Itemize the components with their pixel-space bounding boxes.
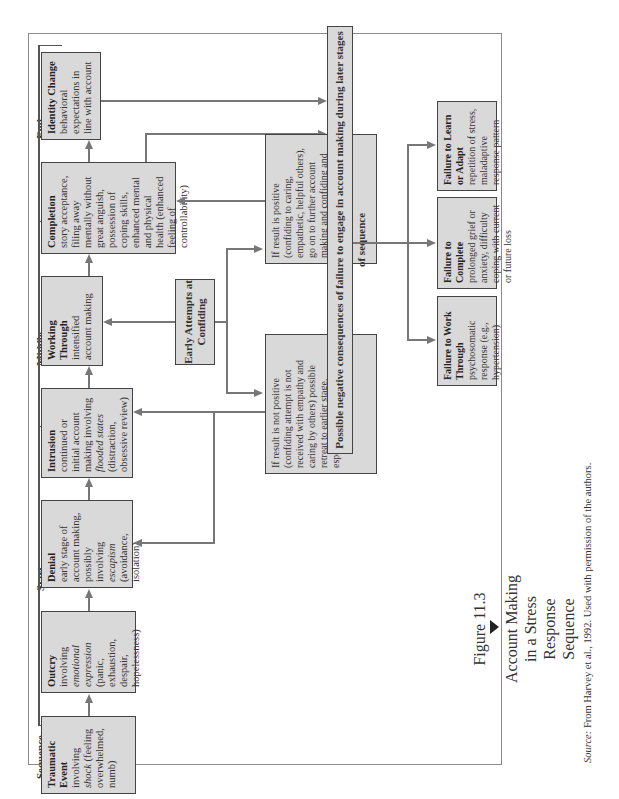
arrow-head-icon (85, 589, 93, 598)
arrow-to-negative-result (226, 392, 256, 394)
arrow-positive-to-completion (185, 200, 265, 202)
arrow-head-icon (133, 539, 142, 547)
box-working-through: Working Through intensified account maki… (41, 276, 103, 366)
arrow-head-icon (176, 197, 185, 205)
stage-bracket-line (38, 45, 40, 726)
connector-early-split (226, 249, 228, 394)
connector-consequences-down (353, 242, 408, 244)
arrow-head-icon (318, 97, 327, 105)
arrow-head-icon (85, 478, 93, 487)
arrow-traumatic-to-outcry (88, 702, 90, 716)
box-outcry: Outcry involving emotional expression (p… (41, 611, 136, 693)
arrow-head-icon (85, 140, 93, 149)
arrow-head-icon (85, 254, 93, 263)
arrow-head-icon (85, 694, 93, 703)
connector-completion-right (145, 134, 147, 162)
arrow-head-icon (254, 389, 263, 397)
arrow-to-failure-learn (407, 144, 429, 146)
arrow-head-icon (427, 239, 436, 247)
arrow-negative-to-intrusion (142, 411, 265, 413)
figure-title: Account Making in a Stress Response Sequ… (502, 529, 578, 729)
arrow-negative-to-denial (142, 542, 214, 544)
box-negative-result: If result is not positive (confiding att… (265, 334, 377, 474)
box-failure-complete: Failure to Complete prolonged grief or a… (437, 197, 497, 289)
arrow-working-to-completion (88, 262, 90, 276)
arrow-outcry-to-denial (88, 597, 90, 611)
arrow-head-icon (427, 336, 436, 344)
stage-divider-right (38, 45, 62, 46)
arrow-intrusion-to-working (88, 374, 90, 388)
box-negative-consequences: Possible negative consequences of failur… (327, 26, 353, 454)
connector-negative-left (213, 413, 215, 544)
box-intrusion: Intrusion continued or initial account m… (41, 388, 133, 478)
arrow-head-icon (254, 245, 263, 253)
arrow-early-to-working (112, 321, 175, 323)
box-failure-learn: Failure to Learn or Adapt repetition of … (437, 101, 497, 191)
rotated-page: Sequence Start Middle End Traumatic Even… (0, 0, 619, 799)
figure-source: Source: From Harvey et al., 1992. Used w… (582, 463, 593, 763)
box-identity-change: Identity Change behavioral expectations … (41, 52, 101, 140)
arrow-to-failure-work (407, 339, 429, 341)
box-failure-work-through: Failure to Work Through psychosomatic re… (437, 296, 497, 386)
caption-triangle-icon (490, 620, 499, 634)
box-completion: Completion story acceptance, filing away… (41, 162, 176, 254)
arrow-completion-to-identity (88, 148, 90, 162)
arrow-head-icon (427, 141, 436, 149)
arrow-denial-to-intrusion (88, 486, 90, 500)
box-early-attempts: Early Attempts at Confiding (175, 279, 215, 365)
arrow-head-icon (103, 318, 112, 326)
arrow-to-failure-complete (407, 242, 429, 244)
arrow-head-icon (133, 408, 142, 416)
box-title: Traumatic Event (46, 722, 70, 788)
arrow-to-positive-result (226, 248, 256, 250)
arrow-head-icon (85, 366, 93, 375)
figure-number: Figure 11.3 (470, 569, 489, 689)
arrow-identity-to-consequences (101, 100, 321, 102)
box-denial: Denial early stage of account making, po… (41, 500, 133, 588)
box-traumatic-event: Traumatic Event involving shock (feeling… (41, 716, 136, 794)
